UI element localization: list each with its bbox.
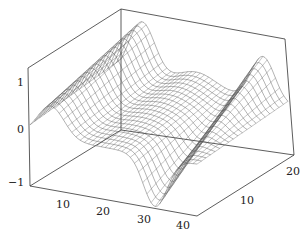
mesh-line [80, 72, 171, 141]
surface-mesh [30, 22, 288, 207]
y-tick-label: 10 [240, 194, 254, 207]
z-tick-label: 1 [17, 76, 24, 89]
mesh-line [30, 106, 197, 206]
mesh-line [126, 83, 217, 154]
mesh-line [147, 90, 238, 194]
mesh-line [68, 53, 159, 126]
mesh-line [39, 98, 206, 194]
mesh-line [101, 72, 192, 147]
mesh-line [117, 26, 284, 105]
mesh-line [93, 72, 184, 145]
surface-plot: 10−1102030401020 [0, 0, 307, 242]
mesh-line [185, 78, 276, 164]
mesh-line [38, 41, 129, 116]
mesh-line [89, 51, 256, 127]
z-tick-label: −1 [8, 176, 24, 189]
x-tick-label: 40 [176, 219, 190, 232]
z-tick-label: 0 [17, 123, 24, 136]
mesh-line [121, 22, 288, 102]
mesh-line [51, 22, 142, 106]
mesh-line [172, 56, 263, 177]
y-tick-label: 20 [286, 165, 300, 178]
mesh-line [176, 60, 267, 171]
mesh-line [155, 81, 246, 207]
mesh-line [193, 96, 284, 164]
mesh-line [197, 101, 288, 164]
mesh-line [88, 73, 179, 144]
mesh-line [122, 80, 213, 151]
mesh-line [139, 90, 230, 172]
mesh-line [130, 86, 221, 158]
mesh-line [47, 24, 138, 107]
mesh-line [30, 59, 121, 125]
mesh-line [55, 25, 146, 109]
x-tick-label: 10 [56, 198, 70, 211]
mesh-line [159, 73, 250, 204]
x-tick-label: 30 [137, 213, 151, 226]
x-tick-label: 20 [96, 205, 110, 218]
